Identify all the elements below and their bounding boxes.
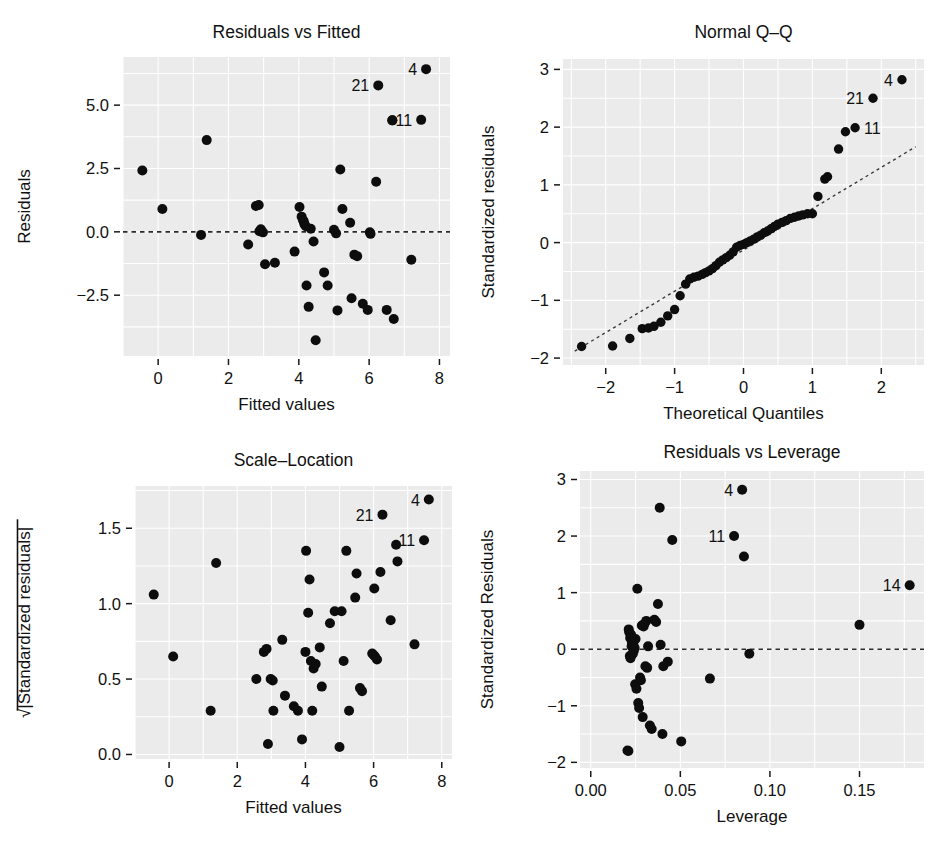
data-point bbox=[813, 192, 822, 201]
outlier-label-4: 4 bbox=[724, 482, 733, 499]
data-point bbox=[352, 251, 362, 261]
data-point bbox=[419, 535, 429, 545]
x-tick-label: 4 bbox=[301, 772, 310, 790]
data-point bbox=[656, 318, 665, 327]
x-tick-label: 0.10 bbox=[754, 781, 786, 799]
data-point bbox=[337, 204, 347, 214]
data-point bbox=[325, 618, 335, 628]
data-point bbox=[307, 706, 317, 716]
data-point bbox=[202, 135, 212, 145]
data-point bbox=[416, 115, 426, 125]
data-point bbox=[647, 724, 657, 734]
data-point bbox=[653, 599, 663, 609]
data-point bbox=[675, 291, 684, 300]
data-point bbox=[905, 580, 915, 590]
data-point bbox=[638, 712, 648, 722]
data-point bbox=[834, 144, 843, 153]
data-point bbox=[319, 267, 329, 277]
plot-background bbox=[580, 471, 924, 768]
y-tick-label: 2 bbox=[557, 527, 566, 545]
x-tick-label: 2 bbox=[877, 378, 886, 396]
data-point bbox=[357, 686, 367, 696]
data-point bbox=[168, 651, 178, 661]
outlier-label-11: 11 bbox=[708, 528, 725, 545]
y-tick-label: 1 bbox=[540, 176, 549, 194]
y-tick-label: 1 bbox=[557, 584, 566, 602]
x-tick-label: 8 bbox=[435, 369, 444, 387]
x-tick-label: 6 bbox=[365, 369, 374, 387]
data-point bbox=[667, 535, 677, 545]
data-point bbox=[332, 305, 342, 315]
data-point bbox=[373, 80, 383, 90]
x-tick-label: 6 bbox=[369, 772, 378, 790]
data-point bbox=[366, 229, 376, 239]
outlier-label-11: 11 bbox=[396, 112, 413, 129]
data-point bbox=[258, 227, 268, 237]
data-point bbox=[663, 657, 673, 667]
scale-location-svg: Scale–Location4211102468Fitted values0.0… bbox=[0, 430, 469, 860]
data-point bbox=[335, 742, 345, 752]
y-tick-label: 0.0 bbox=[86, 223, 109, 241]
data-point bbox=[196, 230, 206, 240]
data-point bbox=[377, 510, 387, 520]
x-tick-label: 0 bbox=[164, 772, 173, 790]
data-point bbox=[369, 584, 379, 594]
data-point bbox=[337, 606, 347, 616]
x-tick-label: 0.00 bbox=[575, 781, 607, 799]
data-point bbox=[897, 75, 906, 84]
data-point bbox=[311, 335, 321, 345]
data-point bbox=[739, 551, 749, 561]
y-axis-title: Standardized Residuals bbox=[478, 530, 497, 710]
data-point bbox=[868, 94, 877, 103]
x-tick-label: −2 bbox=[596, 378, 615, 396]
data-point bbox=[375, 567, 385, 577]
data-point bbox=[270, 258, 280, 268]
data-point bbox=[317, 682, 327, 692]
data-point bbox=[608, 341, 617, 350]
data-point bbox=[339, 656, 349, 666]
data-point bbox=[300, 647, 310, 657]
data-point bbox=[663, 311, 672, 320]
data-point bbox=[744, 649, 754, 659]
outlier-label-4: 4 bbox=[411, 492, 420, 509]
data-point bbox=[823, 172, 832, 181]
data-point bbox=[841, 127, 850, 136]
panel-title: Scale–Location bbox=[234, 450, 354, 470]
x-tick-label: 1 bbox=[808, 378, 817, 396]
y-axis-title: Standardized residuals bbox=[479, 126, 498, 299]
data-point bbox=[293, 706, 303, 716]
residuals-vs-fitted-svg: Residuals vs Fitted4211102468Fitted valu… bbox=[0, 0, 469, 430]
data-point bbox=[277, 635, 287, 645]
data-point bbox=[157, 204, 167, 214]
data-point bbox=[331, 228, 341, 238]
panel-title: Normal Q–Q bbox=[694, 22, 792, 42]
data-point bbox=[855, 620, 865, 630]
y-tick-label: 1.0 bbox=[98, 595, 121, 613]
x-tick-label: 8 bbox=[437, 772, 446, 790]
residuals-vs-leverage-svg: Residuals vs Leverage411140.000.050.100.… bbox=[469, 430, 938, 860]
y-tick-label: 0.5 bbox=[98, 670, 121, 688]
data-point bbox=[372, 654, 382, 664]
data-point bbox=[206, 706, 216, 716]
y-axis: −2−10123 bbox=[530, 60, 560, 367]
x-axis-title: Theoretical Quantiles bbox=[663, 404, 824, 423]
plot-background bbox=[135, 486, 452, 759]
data-point bbox=[623, 746, 633, 756]
data-point bbox=[243, 240, 253, 250]
x-tick-label: 2 bbox=[233, 772, 242, 790]
outlier-label-21: 21 bbox=[846, 90, 864, 107]
data-point bbox=[632, 584, 642, 594]
data-point bbox=[344, 706, 354, 716]
data-point bbox=[211, 558, 221, 568]
data-point bbox=[350, 593, 360, 603]
y-tick-label: −2 bbox=[530, 349, 549, 367]
data-point bbox=[302, 281, 312, 291]
data-point bbox=[421, 64, 431, 74]
y-tick-label: 0.0 bbox=[98, 745, 121, 763]
data-point bbox=[389, 314, 399, 324]
data-point bbox=[386, 615, 396, 625]
y-tick-label: −1 bbox=[530, 291, 549, 309]
x-tick-label: 0.15 bbox=[843, 781, 875, 799]
x-axis: 0.000.050.100.15Leverage bbox=[575, 771, 876, 826]
data-point bbox=[631, 634, 641, 644]
